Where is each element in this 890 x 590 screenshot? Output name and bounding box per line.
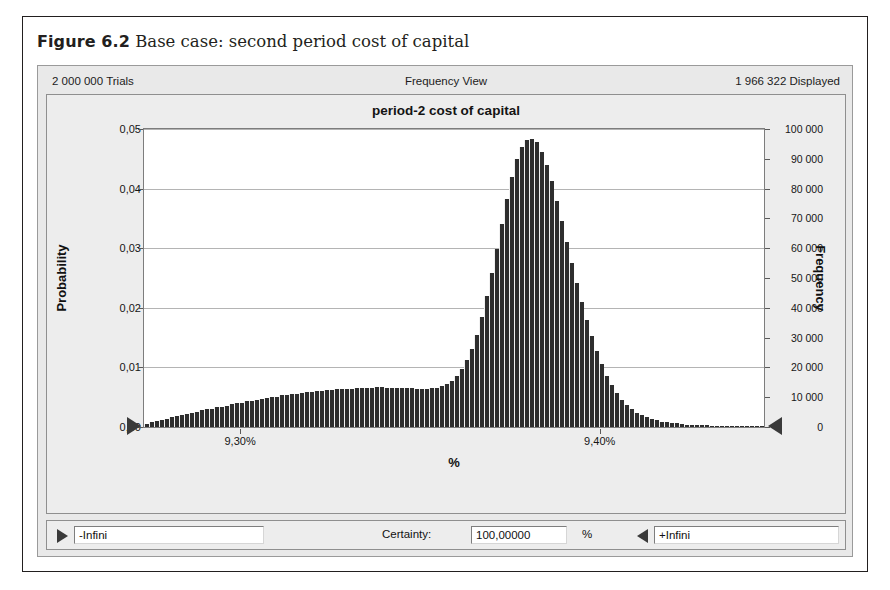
y-tick-label-right: 60 000 [769,242,823,254]
upper-bound-input[interactable]: +Infini [654,526,839,544]
y-tickmark-right [765,308,770,309]
y-tick-label-left: 0,02 [95,302,141,314]
figure-caption: Figure 6.2 Base case: second period cost… [37,27,837,57]
figure-label: Figure 6.2 [37,32,130,51]
y-tick-label-left: 0,04 [95,183,141,195]
y-tick-label-right: 80 000 [769,183,823,195]
y-tickmark-right [765,248,770,249]
y-tick-label-right: 100 000 [769,123,823,135]
certainty-input[interactable]: 100,00000 [471,526,567,544]
y-tickmark-right [765,397,770,398]
y-tick-label-right: 30 000 [769,332,823,344]
displayed-count: 1 966 322 Displayed [735,75,840,87]
y-tickmark-right [765,367,770,368]
y-axis-right-ticks: 010 00020 00030 00040 00050 00060 00070 … [769,128,825,428]
chart-window-header: 2 000 000 Trials Frequency View 1 966 32… [46,73,846,93]
y-tick-label-left: 0,03 [95,242,141,254]
certainty-label: Certainty: [382,528,431,540]
y-tick-label-right: 90 000 [769,153,823,165]
y-axis-left-ticks: 0,000,010,020,030,040,05 [91,128,141,428]
view-mode-label: Frequency View [46,75,846,87]
y-tickmark-right [765,129,770,130]
chart-panel: period-2 cost of capital Probability Fre… [46,94,846,514]
y-tickmark-right [765,338,770,339]
figure-caption-text: Base case: second period cost of capital [135,32,469,51]
y-tick-label-right: 10 000 [769,391,823,403]
histogram-plot-area[interactable] [143,128,765,428]
triangle-left-icon[interactable] [637,529,648,543]
y-tick-label-left: 0,01 [95,361,141,373]
y-tick-label-left: 0,05 [95,123,141,135]
x-tickmark [240,429,241,434]
x-tickmark [600,429,601,434]
y-tick-label-right: 20 000 [769,361,823,373]
chart-window-footer: -Infini Certainty: 100,00000 % +Infini [46,520,846,550]
y-tickmark-right [765,159,770,160]
lower-bound-input[interactable]: -Infini [74,526,264,544]
y-tickmark-right [765,189,770,190]
y-tickmark-right [765,218,770,219]
y-tick-label-right: 40 000 [769,302,823,314]
x-axis-label: % [143,455,765,470]
percent-unit-label: % [582,528,592,540]
y-axis-right-tickmarks [765,128,771,428]
upper-bound-grabber-icon[interactable] [768,417,782,435]
triangle-right-icon[interactable] [57,529,68,543]
gridline [144,427,764,428]
lower-bound-grabber-icon[interactable] [127,417,141,435]
chart-title: period-2 cost of capital [47,103,845,118]
crystal-ball-chart-window: 2 000 000 Trials Frequency View 1 966 32… [37,65,853,557]
y-tickmark-right [765,278,770,279]
y-tick-label-right: 70 000 [769,212,823,224]
figure-frame: Figure 6.2 Base case: second period cost… [22,16,868,572]
histogram-bar [759,426,764,427]
y-axis-label-probability: Probability [53,128,71,428]
x-tick-label: 9,30% [224,435,255,447]
histogram-bars [144,129,764,427]
x-tick-label: 9,40% [584,435,615,447]
y-tick-label-right: 50 000 [769,272,823,284]
